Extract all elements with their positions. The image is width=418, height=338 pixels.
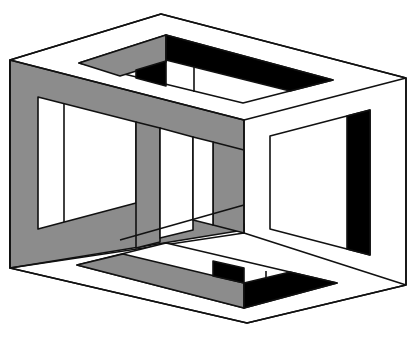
- right-window-black-strip: [347, 110, 370, 255]
- impossible-cube-figure: Impossible cube: [0, 0, 418, 338]
- cube-drawing: [0, 0, 418, 338]
- center-grey-bar-right: [213, 142, 244, 233]
- center-white-inner: [193, 137, 213, 225]
